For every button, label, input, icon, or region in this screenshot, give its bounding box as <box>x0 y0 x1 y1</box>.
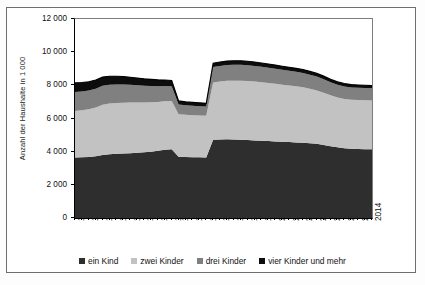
legend-item-label: zwei Kinder <box>140 256 183 266</box>
y-axis-tick-label: 12 000 <box>0 14 67 23</box>
y-axis-tick-label: 2 000 <box>0 179 67 188</box>
plot-area <box>74 18 373 219</box>
y-axis-tick-label: 0 <box>0 213 67 222</box>
legend-swatch-icon <box>259 258 265 264</box>
legend-item-label: drei Kinder <box>206 256 247 266</box>
legend-item[interactable]: zwei Kinder <box>131 256 183 266</box>
legend-item[interactable]: ein Kind <box>79 256 118 266</box>
chart-legend: ein Kindzwei Kinderdrei Kindervier Kinde… <box>0 256 425 266</box>
legend-item[interactable]: vier Kinder und mehr <box>259 256 346 266</box>
legend-swatch-icon <box>79 258 85 264</box>
y-axis-tick-label: 8 000 <box>0 80 67 89</box>
legend-item-label: ein Kind <box>88 256 118 266</box>
legend-item[interactable]: drei Kinder <box>197 256 247 266</box>
legend-swatch-icon <box>131 258 137 264</box>
y-axis-tick-label: 10 000 <box>0 47 67 56</box>
y-axis-tick-label: 6 000 <box>0 113 67 122</box>
legend-swatch-icon <box>197 258 203 264</box>
chart-page: Anzahl der Haushalte in 1 000 02 0004 00… <box>0 0 425 285</box>
stacked-area-chart: Anzahl der Haushalte in 1 000 02 0004 00… <box>0 0 425 285</box>
plot-series-svg <box>75 19 372 218</box>
legend-item-label: vier Kinder und mehr <box>268 256 346 266</box>
y-axis-tick-label: 4 000 <box>0 146 67 155</box>
x-axis-tick-label: 2014 <box>374 203 383 221</box>
